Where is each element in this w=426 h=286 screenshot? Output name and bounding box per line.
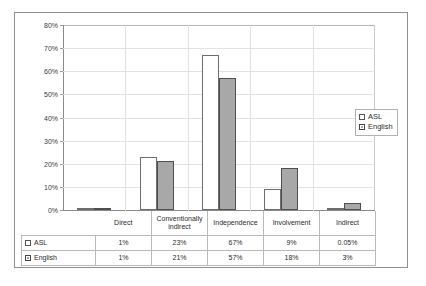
plot-wrapper: 0%10%20%30%40%50%60%70%80% [63, 25, 375, 211]
table-row: ASL 1% 23% 67% 9% 0.05% [22, 236, 376, 251]
cell-asl-indirect: 0.05% [320, 236, 376, 251]
bar-english-indirect [344, 203, 361, 210]
column-header-direct: Direct [96, 211, 152, 236]
legend-item-asl: ASL [359, 112, 393, 122]
bar-english-independence [219, 78, 236, 210]
row-label-english: English [34, 254, 57, 261]
table-row: English 1% 21% 57% 18% 3% [22, 251, 376, 266]
cell-english-indirect: 3% [320, 251, 376, 266]
legend-item-english: English [359, 122, 393, 132]
cell-english-direct: 1% [96, 251, 152, 266]
column-header-involvement: Involvement [264, 211, 320, 236]
y-tick-label: 50% [44, 91, 58, 98]
bar-asl-indirect [327, 208, 344, 210]
row-header-asl: ASL [22, 236, 96, 251]
data-table-wrapper: Direct Conventionally indirect Independe… [21, 211, 375, 266]
cell-english-conventionally-indirect: 21% [152, 251, 208, 266]
bar-asl-involvement [264, 189, 281, 210]
white-square-icon [359, 114, 365, 120]
legend-label-english: English [368, 122, 393, 132]
bar-english-direct [94, 208, 111, 210]
cell-asl-independence: 67% [208, 236, 264, 251]
cell-asl-involvement: 9% [264, 236, 320, 251]
chart-legend: ASL English [355, 109, 398, 136]
y-tick-label: 40% [44, 114, 58, 121]
legend-label-asl: ASL [368, 112, 382, 122]
y-tick-label: 80% [44, 22, 58, 29]
y-tick-label: 70% [44, 45, 58, 52]
y-tick-label: 30% [44, 137, 58, 144]
row-header-english: English [22, 251, 96, 266]
bar-english-conventionally-indirect [157, 161, 174, 210]
column-header-conventionally-indirect: Conventionally indirect [152, 211, 208, 236]
gray-square-icon [359, 124, 365, 130]
column-header-indirect: Indirect [320, 211, 376, 236]
bar-group-involvement [250, 25, 312, 210]
cell-english-independence: 57% [208, 251, 264, 266]
white-square-icon [25, 240, 31, 246]
column-header-independence: Independence [208, 211, 264, 236]
cell-asl-direct: 1% [96, 236, 152, 251]
bar-group-independence [188, 25, 250, 210]
bar-asl-independence [202, 55, 219, 210]
chart-frame: 0%10%20%30%40%50%60%70%80% ASL English [14, 12, 408, 268]
table-header-row: Direct Conventionally indirect Independe… [22, 211, 376, 236]
gray-square-icon [25, 255, 31, 261]
table-corner-cell [22, 211, 96, 236]
bar-asl-conventionally-indirect [140, 157, 157, 210]
row-label-asl: ASL [34, 239, 47, 246]
cell-english-involvement: 18% [264, 251, 320, 266]
bar-asl-direct [77, 208, 94, 210]
y-tick-label: 60% [44, 68, 58, 75]
bar-english-involvement [281, 168, 298, 210]
bar-group-conventionally-indirect [125, 25, 187, 210]
y-tick-label: 20% [44, 160, 58, 167]
y-tick-label: 10% [44, 183, 58, 190]
bar-group-direct [63, 25, 125, 210]
cell-asl-conventionally-indirect: 23% [152, 236, 208, 251]
data-table: Direct Conventionally indirect Independe… [21, 211, 376, 266]
